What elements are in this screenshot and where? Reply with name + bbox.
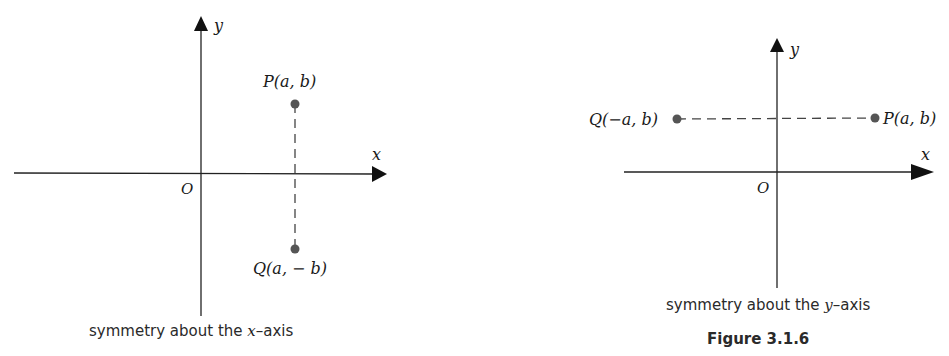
- right-y-axis-label: y: [789, 40, 800, 59]
- point-p: [871, 114, 880, 123]
- left-origin-label: O: [181, 180, 193, 198]
- left-caption: symmetry about the x–axis: [89, 322, 293, 340]
- point-q: [291, 245, 300, 254]
- left-figure: y x O P(a, b) Q(a, − b) symmetry about t…: [14, 16, 387, 340]
- right-figure: y x O Q(−a, b) P(a, b) symmetry about th…: [589, 38, 936, 348]
- left-x-axis-label: x: [372, 145, 381, 164]
- right-x-axis-label: x: [921, 145, 930, 164]
- right-dashed-segment: [677, 118, 875, 119]
- point-p-label: P(a, b): [262, 72, 316, 91]
- right-x-axis-arrow-icon: [911, 164, 934, 180]
- point-q: [673, 115, 682, 124]
- right-caption: symmetry about the y–axis: [666, 296, 871, 314]
- symmetry-diagrams: y x O P(a, b) Q(a, − b) symmetry about t…: [0, 0, 949, 356]
- right-origin-label: O: [757, 179, 769, 197]
- point-p: [291, 100, 300, 109]
- left-x-axis-arrow-icon: [372, 166, 387, 182]
- point-q-label: Q(−a, b): [589, 110, 658, 129]
- left-y-axis-arrow-icon: [194, 16, 208, 31]
- right-y-axis-arrow-icon: [770, 38, 784, 52]
- figure-label: Figure 3.1.6: [707, 330, 809, 348]
- point-p-label: P(a, b): [882, 109, 936, 128]
- left-y-axis-label: y: [213, 16, 224, 35]
- left-x-axis: [14, 173, 374, 174]
- point-q-label: Q(a, − b): [253, 259, 327, 278]
